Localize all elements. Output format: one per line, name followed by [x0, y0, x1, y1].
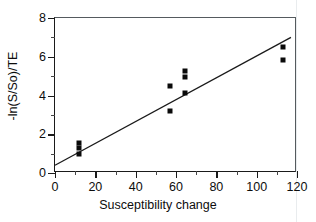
x-tick-major: [297, 171, 298, 178]
y-tick-major: [48, 18, 55, 19]
x-tick-major: [176, 171, 177, 178]
y-tick-minor: [51, 115, 55, 116]
x-tick-minor: [196, 171, 197, 175]
y-tick-major: [48, 134, 55, 135]
x-tick-major: [257, 171, 258, 178]
x-tick-label: 40: [129, 180, 143, 194]
x-tick-minor: [277, 171, 278, 175]
x-tick-minor: [156, 171, 157, 175]
data-point: [77, 145, 82, 150]
x-tick-label: 60: [169, 180, 183, 194]
y-tick-minor: [51, 154, 55, 155]
y-tick-minor: [51, 76, 55, 77]
plot-area: 02468 020406080100120: [54, 17, 296, 172]
x-tick-minor: [75, 171, 76, 175]
x-tick-label: 0: [52, 180, 59, 194]
x-tick-minor: [237, 171, 238, 175]
y-axis-title-text: -ln(S/So)/TE: [6, 52, 20, 121]
x-tick-label: 120: [287, 180, 308, 194]
data-point: [77, 151, 82, 156]
x-axis-title: Susceptibility change: [0, 198, 316, 212]
data-point: [183, 90, 188, 95]
y-tick-minor: [51, 37, 55, 38]
data-point: [280, 45, 285, 50]
regression-line-segment: [55, 37, 291, 165]
x-tick-major: [95, 171, 96, 178]
y-tick-major: [48, 173, 55, 174]
y-tick-label: 4: [39, 89, 46, 103]
x-tick-minor: [116, 171, 117, 175]
y-axis-title: -ln(S/So)/TE: [4, 0, 22, 172]
scatter-plot-figure: -ln(S/So)/TE 02468 020406080100120 Susce…: [0, 0, 316, 222]
fit-line: [55, 18, 297, 173]
x-tick-major: [55, 171, 56, 178]
x-tick-major: [216, 171, 217, 178]
x-tick-major: [136, 171, 137, 178]
y-tick-label: 2: [39, 127, 46, 141]
data-point: [280, 57, 285, 62]
x-tick-label: 20: [88, 180, 102, 194]
y-tick-major: [48, 57, 55, 58]
x-axis-title-text: Susceptibility change: [99, 198, 216, 212]
data-point: [167, 109, 172, 114]
data-point: [183, 75, 188, 80]
data-point: [167, 83, 172, 88]
y-tick-major: [48, 96, 55, 97]
x-tick-label: 80: [209, 180, 223, 194]
y-tick-label: 0: [39, 166, 46, 180]
data-point: [183, 69, 188, 74]
x-tick-label: 100: [246, 180, 267, 194]
y-tick-label: 6: [39, 50, 46, 64]
y-tick-label: 8: [39, 11, 46, 25]
